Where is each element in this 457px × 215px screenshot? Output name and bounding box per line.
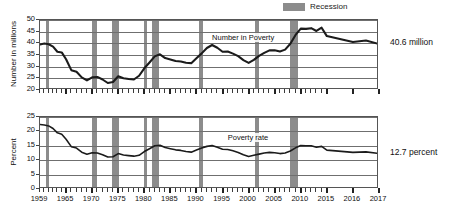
x-tick-minor — [43, 188, 44, 192]
x-tick-minor — [305, 89, 306, 93]
x-tick-major — [169, 188, 171, 193]
x-tick-major — [65, 188, 67, 193]
x-tick-major — [274, 188, 276, 193]
x-tick-minor — [268, 89, 269, 93]
x-tick-minor — [258, 89, 259, 93]
x-tick-minor — [154, 188, 155, 192]
plot-area-percent — [39, 116, 378, 188]
x-tick-minor — [122, 89, 123, 93]
x-tick-minor — [315, 188, 316, 192]
x-tick-minor — [263, 89, 264, 93]
poverty-figure: Recession Number in millions 20253035404… — [0, 0, 457, 215]
x-tick-minor — [227, 89, 228, 93]
x-tick-minor — [159, 188, 160, 192]
series-label-poverty-rate: Poverty rate — [227, 133, 269, 142]
x-tick-minor — [206, 89, 207, 93]
x-tick-minor — [284, 89, 285, 93]
x-tick-minor — [102, 89, 103, 93]
x-tick-minor — [128, 89, 129, 93]
x-tick-minor — [76, 188, 77, 192]
x-tick-minor — [295, 89, 296, 93]
x-tick-major — [195, 89, 197, 94]
x-tick-major — [117, 89, 119, 94]
x-tick-minor — [253, 188, 254, 192]
y-tick-label: 15 — [21, 141, 35, 149]
x-tick-minor — [154, 89, 155, 93]
x-tick-minor — [39, 89, 40, 93]
x-tick-minor — [216, 188, 217, 192]
x-tick-minor — [102, 188, 103, 192]
x-tick-minor — [133, 188, 134, 192]
x-tick-minor — [206, 188, 207, 192]
x-tick-label: 2017 — [361, 194, 395, 203]
x-tick-minor — [52, 188, 53, 192]
x-tick-minor — [112, 89, 113, 93]
x-tick-minor — [185, 188, 186, 192]
x-tick-minor — [56, 188, 57, 192]
x-tick-minor — [76, 89, 77, 93]
x-tick-minor — [43, 89, 44, 93]
x-tick-minor — [164, 188, 165, 192]
y-tick-label: 20 — [21, 85, 35, 93]
callout-number: 40.6 million — [390, 37, 433, 47]
x-tick-minor — [310, 188, 311, 192]
x-tick-minor — [289, 188, 290, 192]
x-tick-minor — [175, 89, 176, 93]
x-tick-minor — [258, 188, 259, 192]
y-tick-label: 25 — [21, 112, 35, 120]
x-tick-minor — [48, 89, 49, 93]
x-tick-minor — [96, 89, 97, 93]
x-tick-minor — [180, 188, 181, 192]
y-tick-label: 10 — [21, 155, 35, 163]
series-line-number-in-poverty — [40, 20, 378, 89]
plot-area-number — [39, 19, 378, 89]
y-axis-title-percent: Percent — [9, 116, 18, 188]
y-tick-label: 0 — [21, 184, 35, 192]
x-tick-minor — [107, 188, 108, 192]
x-tick-minor — [138, 89, 139, 93]
y-tick-label: 50 — [21, 15, 35, 23]
x-tick-major — [222, 89, 224, 94]
x-tick-major — [169, 89, 171, 94]
x-tick-minor — [253, 89, 254, 93]
x-tick-minor — [201, 89, 202, 93]
x-tick-minor — [81, 89, 82, 93]
x-tick-minor — [86, 188, 87, 192]
x-tick-minor — [237, 89, 238, 93]
x-tick-minor — [164, 89, 165, 93]
x-tick-minor — [86, 89, 87, 93]
x-tick-minor — [112, 188, 113, 192]
y-axis-title-number: Number in millions — [9, 19, 18, 89]
x-tick-minor — [237, 188, 238, 192]
x-tick-minor — [305, 188, 306, 192]
x-tick-minor — [128, 188, 129, 192]
y-tick-label: 35 — [21, 50, 35, 58]
x-tick-minor — [52, 89, 53, 93]
x-tick-major — [222, 188, 224, 193]
x-tick-minor — [242, 188, 243, 192]
x-tick-minor — [70, 188, 71, 192]
x-tick-minor — [159, 89, 160, 93]
x-tick-minor — [263, 188, 264, 192]
x-tick-minor — [81, 188, 82, 192]
y-tick-label: 30 — [21, 62, 35, 70]
y-tick-label: 40 — [21, 38, 35, 46]
x-tick-minor — [242, 89, 243, 93]
x-tick-minor — [216, 89, 217, 93]
x-tick-minor — [211, 188, 212, 192]
x-tick-minor — [321, 89, 322, 93]
x-tick-minor — [39, 188, 40, 192]
x-tick-major — [91, 89, 93, 94]
series-label-number-in-poverty: Number in Poverty — [211, 33, 275, 42]
x-tick-minor — [133, 89, 134, 93]
x-tick-minor — [211, 89, 212, 93]
x-tick-major — [352, 188, 354, 193]
x-tick-minor — [321, 188, 322, 192]
x-tick-minor — [107, 89, 108, 93]
x-tick-major — [274, 89, 276, 94]
x-tick-major — [378, 188, 380, 193]
x-tick-minor — [138, 188, 139, 192]
x-tick-major — [378, 89, 380, 94]
x-tick-minor — [227, 188, 228, 192]
x-tick-minor — [175, 188, 176, 192]
